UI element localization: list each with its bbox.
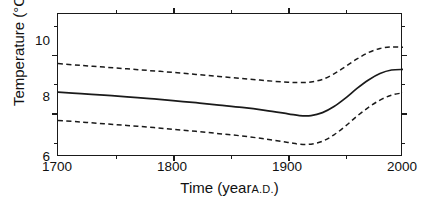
lower-bound-curve (58, 93, 403, 145)
upper-bound-curve (58, 47, 403, 83)
x-tick-label-1900: 1900 (252, 160, 322, 174)
mean-curve (58, 69, 403, 115)
y-axis-title-unit: (°C) (10, 0, 27, 18)
x-axis-title-main: Time (year (180, 179, 251, 196)
y-axis-title: Temperature (°C) (11, 0, 26, 123)
plot-area (57, 13, 402, 156)
chart-figure: Temperature (°C) 10 8 6 1700 1800 1900 2… (0, 0, 426, 205)
x-tick-label-2000: 2000 (367, 160, 426, 174)
data-curves (58, 14, 403, 157)
x-axis-title: Time (yearA.D.) (57, 180, 402, 197)
x-axis-title-smallcaps: A.D. (251, 183, 273, 195)
x-axis-title-close: ) (274, 179, 279, 196)
x-tick-label-1800: 1800 (137, 160, 207, 174)
y-tick-label-8: 8 (16, 90, 50, 104)
y-tick-label-10: 10 (16, 34, 50, 48)
x-tick-label-1700: 1700 (22, 160, 92, 174)
